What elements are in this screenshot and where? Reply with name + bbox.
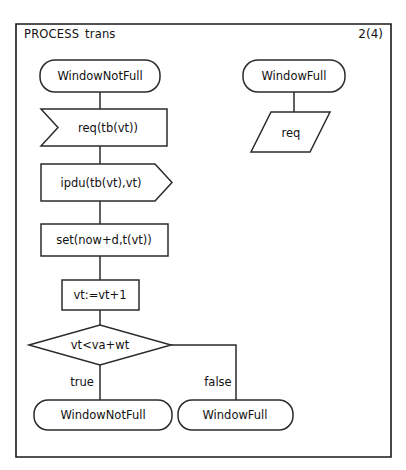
branch-label-true: true [70, 375, 94, 389]
state-label-start-left: WindowNotFull [57, 69, 142, 83]
save-label-req: req [282, 126, 301, 140]
connector-decision-false [171, 345, 236, 400]
input-label-req: req(tb(vt)) [78, 121, 138, 135]
process-name: trans [85, 27, 116, 41]
task-label-increment: vt:=vt+1 [73, 288, 126, 302]
output-label-ipdu: ipdu(tb(vt),vt) [60, 176, 141, 190]
process-flowchart: PROCESS trans 2(4) WindowNotFull req(tb(… [0, 0, 406, 470]
task-label-set: set(now+d,t(vt)) [56, 233, 152, 247]
process-keyword: PROCESS [24, 27, 79, 41]
state-label-end-false: WindowFull [202, 408, 267, 422]
decision-label: vt<va+wt [71, 338, 130, 352]
page-number: 2(4) [358, 27, 383, 41]
branch-label-false: false [204, 375, 231, 389]
sdl-diagram-canvas: PROCESS trans 2(4) WindowNotFull req(tb(… [0, 0, 406, 470]
state-label-start-right: WindowFull [261, 69, 326, 83]
state-label-end-true: WindowNotFull [60, 408, 145, 422]
